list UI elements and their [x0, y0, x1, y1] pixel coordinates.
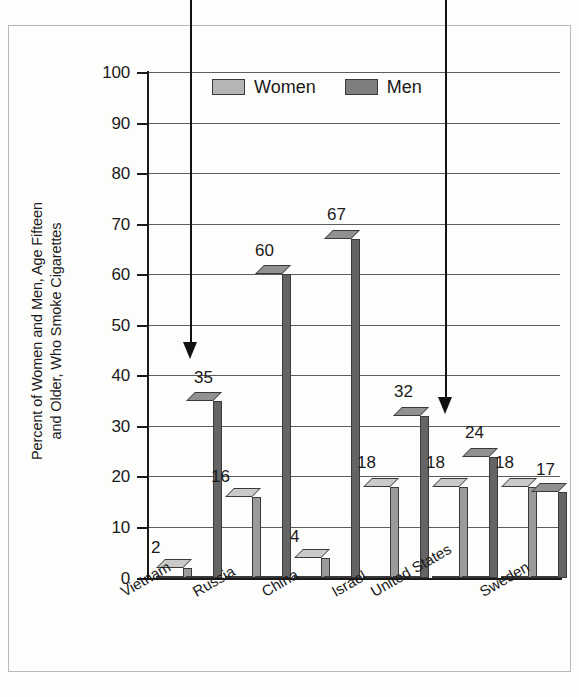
bar-side-face: [558, 492, 567, 578]
arrow-head-down-icon: [183, 342, 197, 359]
bar-top-face: [186, 392, 222, 401]
bar-top-face: [501, 478, 537, 487]
value-label-israel-men: 32: [394, 383, 413, 400]
y-tick-100: 100: [70, 64, 130, 81]
legend-swatch-women-icon: [212, 79, 245, 95]
bar-side-face: [489, 457, 498, 578]
chart-page: Percent of Women and Men, Age Fifteen an…: [0, 0, 579, 697]
value-label-sweden-women: 18: [495, 454, 514, 471]
value-label-united-states-men: 24: [465, 424, 484, 441]
bar-top-face: [531, 483, 567, 492]
bar-group-china: 4 67: [294, 72, 358, 578]
y-axis-title-line-1: Percent of Women and Men, Age Fifteen: [28, 96, 47, 566]
bar-china-men[interactable]: [324, 239, 351, 578]
bar-group-sweden: 18 17: [501, 72, 565, 578]
y-tick-80: 80: [70, 165, 130, 182]
bar-top-face: [393, 407, 429, 416]
bar-group-russia: 16 60: [225, 72, 289, 578]
y-tick-30: 30: [70, 418, 130, 435]
y-tick-50: 50: [70, 317, 130, 334]
value-label-sweden-men: 17: [536, 461, 555, 478]
y-tick-20: 20: [70, 468, 130, 485]
arrow-head-down-icon: [438, 397, 452, 414]
bar-top-face: [324, 230, 360, 239]
value-label-china-women: 4: [290, 528, 299, 545]
legend-label-men: Men: [387, 78, 422, 96]
bar-group-united-states: 18 24: [432, 72, 496, 578]
value-label-united-states-women: 18: [426, 454, 445, 471]
value-label-vietnam-men: 35: [194, 369, 213, 386]
y-tick-40: 40: [70, 367, 130, 384]
y-tick-70: 70: [70, 216, 130, 233]
value-label-china-men: 67: [327, 206, 346, 223]
legend-item-women[interactable]: Women: [212, 78, 316, 96]
y-tick-60: 60: [70, 266, 130, 283]
legend-item-men[interactable]: Men: [345, 78, 422, 96]
bar-top-face: [255, 265, 291, 274]
bar-side-face: [213, 401, 222, 578]
bar-group-vietnam: 2 35: [156, 72, 220, 578]
plot-area: 2 35 16 60: [148, 72, 560, 578]
bar-side-face: [351, 239, 360, 578]
y-tick-90: 90: [70, 115, 130, 132]
bar-group-israel: 18 32: [363, 72, 427, 578]
legend-swatch-men-icon: [345, 79, 378, 95]
legend: Women Men: [212, 78, 422, 96]
y-tick-10: 10: [70, 519, 130, 536]
bar-russia-men[interactable]: [255, 274, 282, 578]
value-label-russia-women: 16: [211, 468, 230, 485]
value-label-israel-women: 18: [357, 454, 376, 471]
bar-israel-women[interactable]: [363, 487, 390, 578]
bar-united-states-men[interactable]: [462, 457, 489, 578]
value-label-russia-men: 60: [255, 242, 274, 259]
arrow-shaft: [190, 0, 192, 344]
arrow-shaft: [445, 0, 447, 399]
bar-top-face: [462, 448, 498, 457]
y-axis-line: [147, 71, 149, 579]
value-label-vietnam-women: 2: [151, 539, 160, 556]
bar-sweden-men[interactable]: [531, 492, 558, 578]
y-axis-title: Percent of Women and Men, Age Fifteen an…: [28, 96, 66, 566]
bar-vietnam-men[interactable]: [186, 401, 213, 578]
bar-israel-men[interactable]: [393, 416, 420, 578]
y-axis-tick-labels: 100 90 80 70 60 50 40 30 20 10 0: [62, 0, 130, 697]
legend-label-women: Women: [254, 78, 316, 96]
